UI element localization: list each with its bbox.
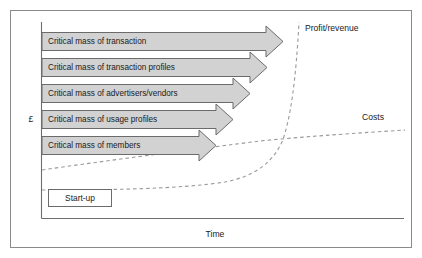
arrow-label: Critical mass of usage profiles (48, 115, 157, 124)
figure-container: £ Time Costs Profit/revenue Critical mas… (0, 0, 422, 258)
diagram-canvas: £ Time Costs Profit/revenue Critical mas… (0, 0, 422, 258)
arrow-label: Critical mass of transaction (48, 37, 147, 46)
profit-revenue-curve-label: Profit/revenue (305, 23, 359, 33)
critical-mass-arrow-5: Critical mass of members (42, 130, 216, 161)
arrow-label: Critical mass of transaction profiles (48, 63, 175, 72)
costs-curve-label: Costs (362, 112, 384, 122)
arrow-label: Critical mass of members (48, 141, 140, 150)
arrow-label: Critical mass of advertisers/vendors (48, 89, 178, 98)
start-up-label: Start-up (65, 193, 95, 203)
x-axis-label: Time (206, 229, 225, 239)
critical-mass-arrow-4: Critical mass of usage profiles (42, 104, 233, 135)
y-axis-label: £ (29, 114, 34, 124)
start-up-callout: Start-up (49, 190, 112, 207)
critical-mass-arrow-1: Critical mass of transaction (42, 26, 283, 57)
critical-mass-arrow-3: Critical mass of advertisers/vendors (42, 78, 250, 109)
